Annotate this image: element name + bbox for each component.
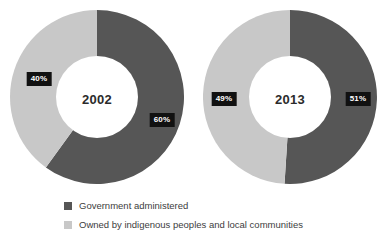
donut-2002-label-indigenous: 40% bbox=[27, 72, 52, 86]
legend-item-government[interactable]: Government administered bbox=[64, 196, 374, 215]
donut-2013-label-government: 51% bbox=[346, 92, 371, 106]
donut-2013-center-year: 2013 bbox=[275, 92, 305, 107]
donut-chart-2013: 2013 49% 51% bbox=[203, 10, 377, 184]
chart-legend: Government administered Owned by indigen… bbox=[64, 196, 374, 234]
legend-swatch-indigenous-icon bbox=[64, 221, 72, 229]
legend-item-indigenous[interactable]: Owned by indigenous peoples and local co… bbox=[64, 215, 374, 234]
donut-2013-label-indigenous: 49% bbox=[212, 92, 237, 106]
donut-2002-center-year: 2002 bbox=[82, 92, 112, 107]
legend-swatch-government-icon bbox=[64, 202, 72, 210]
donut-chart-2002: 2002 40% 60% bbox=[10, 10, 184, 184]
donut-chart-figure: 2002 40% 60% 2013 49% 51% Government adm… bbox=[0, 0, 387, 243]
donut-2002-label-government: 60% bbox=[150, 113, 175, 127]
legend-label-government: Government administered bbox=[79, 201, 188, 211]
legend-label-indigenous: Owned by indigenous peoples and local co… bbox=[79, 220, 303, 230]
